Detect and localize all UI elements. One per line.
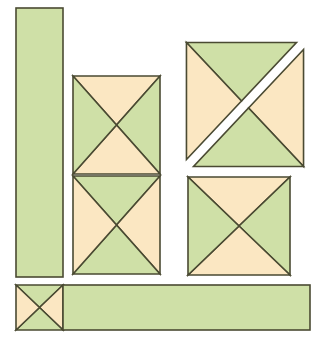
vertical-bar-body (16, 8, 63, 277)
horizontal-bar (63, 285, 310, 330)
horizontal-bar-body (63, 285, 310, 330)
square-middle-lower (73, 176, 160, 274)
vertical-bar (16, 8, 63, 277)
square-small-bottom-left (16, 285, 63, 330)
square-bottom-right (188, 177, 290, 275)
square-top-right-split (186, 42, 303, 166)
diagram-canvas (0, 0, 319, 345)
square-middle-upper (73, 76, 160, 174)
geometric-figure (0, 0, 319, 345)
